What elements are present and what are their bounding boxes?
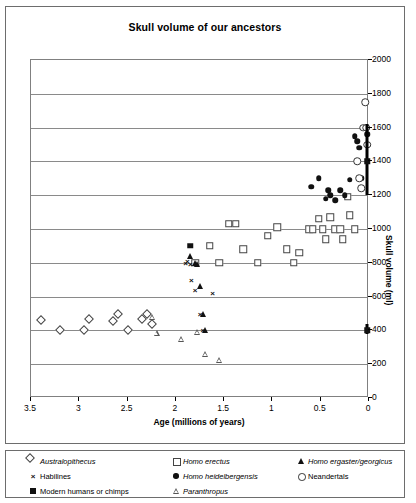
data-point [154, 330, 160, 336]
legend-label: Homo erectus [183, 457, 230, 466]
data-point [178, 336, 184, 342]
data-point [55, 325, 65, 335]
data-point [361, 99, 369, 107]
legend-label: Habilines [40, 472, 71, 481]
x-axis-tick [368, 397, 369, 401]
gridline [31, 364, 367, 365]
data-point [308, 184, 314, 190]
legend-marker-icon [296, 472, 306, 480]
x-axis-tick-label: 2 [172, 403, 177, 413]
y-axis-tick-label: 1800 [372, 88, 391, 98]
data-point [339, 235, 347, 243]
data-point [232, 220, 240, 228]
data-point: × [197, 310, 204, 317]
legend-marker-icon [28, 457, 38, 465]
data-point [332, 198, 338, 204]
data-point [188, 243, 194, 249]
data-point [357, 145, 363, 151]
y-axis-tick-label: 600 [372, 291, 386, 301]
y-axis-tick [368, 296, 372, 297]
legend-label: Australopithecus [40, 457, 95, 466]
data-point [264, 232, 272, 240]
data-point [149, 314, 155, 320]
legend-marker-icon [296, 457, 306, 465]
legend-label: Paranthropus [183, 487, 228, 496]
data-point [290, 259, 298, 267]
data-point [296, 249, 304, 257]
x-axis-tick [78, 397, 79, 401]
data-point [322, 235, 330, 243]
data-point [274, 224, 282, 232]
legend-label: Homo heidelbergensis [183, 472, 258, 481]
data-point [216, 357, 222, 363]
x-axis-label: Age (millions of years) [6, 417, 392, 427]
data-point [283, 246, 291, 254]
legend-marker-icon [171, 457, 181, 465]
data-point [84, 314, 94, 324]
x-axis-tick-label: 3.5 [24, 403, 36, 413]
y-axis-tick-label: 400 [372, 324, 386, 334]
data-point [342, 192, 348, 198]
x-axis-tick-label: 0.5 [314, 403, 326, 413]
y-axis-tick [368, 194, 372, 195]
data-point [337, 187, 343, 193]
data-point [36, 315, 46, 325]
y-axis-tick [368, 329, 372, 330]
data-point [194, 329, 200, 335]
chart-frame: Skull volume of our ancestors ×××××××× S… [5, 6, 405, 444]
data-point [79, 325, 89, 335]
legend-marker-icon [171, 472, 181, 480]
gridline [31, 128, 367, 129]
gridline [31, 94, 367, 95]
legend-marker-icon [28, 487, 38, 495]
y-axis-tick-label: 1600 [372, 122, 391, 132]
legend-label: Neandertals [308, 472, 348, 481]
data-point [347, 177, 353, 183]
x-axis-tick [223, 397, 224, 401]
y-axis-tick [368, 363, 372, 364]
legend-item: Modern humans or chimps [28, 484, 129, 498]
legend-item: Neandertals [296, 469, 348, 483]
y-axis-tick [368, 228, 372, 229]
data-point [309, 225, 317, 233]
data-point [240, 246, 248, 254]
y-axis-tick-label: 200 [372, 358, 386, 368]
data-point [327, 213, 335, 221]
legend-item: Paranthropus [171, 484, 228, 498]
data-point [351, 225, 359, 233]
y-axis-tick-label: 1400 [372, 155, 391, 165]
data-point [147, 319, 157, 329]
chart-title: Skull volume of our ancestors [6, 21, 404, 33]
x-axis-tick [320, 397, 321, 401]
legend-item: Homo ergaster/georgicus [296, 454, 392, 468]
data-point [202, 351, 208, 357]
data-point [336, 225, 344, 233]
x-axis-tick-label: 3 [76, 403, 81, 413]
data-point [358, 185, 366, 193]
data-point [315, 215, 323, 223]
data-point [346, 212, 354, 220]
legend-item: Homo erectus [171, 454, 230, 468]
y-axis-tick-label: 2000 [372, 54, 391, 64]
gridline [31, 297, 367, 298]
chart-legend: AustralopithecusHomo erectusHomo ergaste… [5, 450, 405, 498]
data-point [328, 192, 334, 198]
gridline [31, 161, 367, 162]
y-axis-tick-label: 1200 [372, 189, 391, 199]
data-point: × [209, 290, 216, 297]
data-point [254, 259, 262, 267]
legend-marker-icon: × [28, 472, 38, 480]
data-point [216, 259, 224, 267]
y-axis-tick [368, 262, 372, 263]
data-point [194, 261, 200, 267]
data-point: × [188, 276, 195, 283]
plot-area: ×××××××× [30, 59, 368, 397]
data-point: × [199, 327, 206, 334]
data-point [356, 175, 364, 183]
y-axis-tick-label: 1000 [372, 223, 391, 233]
data-point: × [182, 259, 189, 266]
x-axis-tick-label: 1 [269, 403, 274, 413]
legend-item: ×Habilines [28, 469, 71, 483]
x-axis-tick [127, 397, 128, 401]
data-point [354, 158, 362, 166]
